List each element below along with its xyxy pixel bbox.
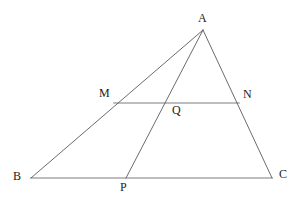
- geometry-diagram: A B C M N P Q: [0, 0, 302, 199]
- vertex-label-a: A: [198, 12, 207, 24]
- geometry-canvas: [0, 0, 302, 199]
- vertex-label-m: M: [99, 87, 110, 99]
- vertex-label-n: N: [243, 88, 252, 100]
- vertex-label-b: B: [13, 170, 21, 182]
- vertex-label-c: C: [279, 168, 287, 180]
- vertex-label-q: Q: [172, 104, 181, 116]
- vertex-label-p: P: [120, 181, 127, 193]
